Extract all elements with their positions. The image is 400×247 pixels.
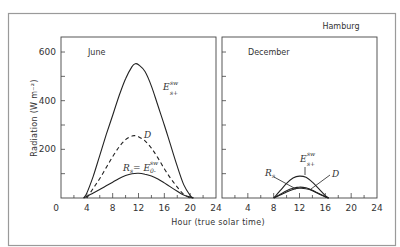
svg-text:D: D xyxy=(331,169,339,179)
december-curves xyxy=(274,176,329,198)
outer-frame xyxy=(9,14,396,246)
location-title: Hamburg xyxy=(322,22,359,31)
svg-text:s+: s+ xyxy=(307,160,315,167)
x-tick-label: 12 xyxy=(133,203,144,213)
y-tick-label: 600 xyxy=(39,47,56,57)
december-title: December xyxy=(248,48,290,57)
june-title: June xyxy=(87,48,106,57)
svg-text:= E: = E xyxy=(133,163,150,173)
december-label-D: D xyxy=(311,169,339,189)
x-tick-label: 24 xyxy=(210,203,222,213)
june-panel: 200400600 04812162024 June E sw s+ D R s… xyxy=(39,37,222,213)
december-panel: 4812162024 December E sw s+ R s D xyxy=(222,37,383,213)
june-label-Rs: R s = E sw 0- xyxy=(122,159,159,174)
june-x-ticks: 04812162024 xyxy=(53,193,222,213)
x-tick-label: 4 xyxy=(245,203,251,213)
svg-text:sw: sw xyxy=(307,150,316,157)
svg-text:R: R xyxy=(264,168,272,178)
x-tick-label: 8 xyxy=(271,203,277,213)
svg-text:R: R xyxy=(122,163,130,173)
svg-text:s+: s+ xyxy=(170,89,178,96)
y-tick-label: 200 xyxy=(39,144,56,154)
x-axis-title: Hour (true solar time) xyxy=(171,218,265,227)
svg-text:Radiation (W m⁻²): Radiation (W m⁻²) xyxy=(30,79,39,156)
y-axis-title: Radiation (W m⁻²) xyxy=(30,79,39,156)
svg-text:s: s xyxy=(272,172,275,179)
x-tick-label: 16 xyxy=(159,203,171,213)
december-x-ticks: 4812162024 xyxy=(235,193,383,213)
svg-text:E: E xyxy=(299,154,307,164)
svg-text:sw: sw xyxy=(170,79,179,86)
svg-text:0-: 0- xyxy=(150,167,156,174)
x-tick-label: 8 xyxy=(110,203,116,213)
june-plot-frame xyxy=(61,37,216,198)
june-label-E: E sw s+ xyxy=(162,79,179,96)
december-plot-frame xyxy=(222,37,377,198)
radiation-chart: Hamburg 200400600 04812162024 June E sw … xyxy=(0,0,400,247)
x-tick-label: 20 xyxy=(184,203,196,213)
december-label-Rs: R s xyxy=(264,168,296,189)
x-tick-label: 4 xyxy=(84,203,90,213)
x-tick-label: 0 xyxy=(53,203,59,213)
x-tick-label: 24 xyxy=(371,203,383,213)
x-tick-label: 16 xyxy=(320,203,332,213)
y-tick-label: 400 xyxy=(39,96,56,106)
x-tick-label: 12 xyxy=(294,203,305,213)
june-label-D: D xyxy=(143,130,151,140)
december-label-E: E sw s+ xyxy=(299,150,316,175)
x-tick-label: 20 xyxy=(345,203,357,213)
svg-text:sw: sw xyxy=(150,159,159,166)
svg-text:E: E xyxy=(162,82,170,92)
december-y-ticks xyxy=(222,52,226,174)
